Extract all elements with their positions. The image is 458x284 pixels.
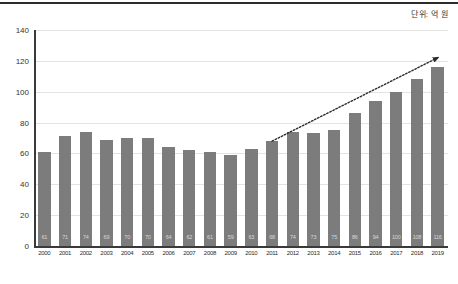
bar: 75 [328,130,340,246]
bar: 94 [369,101,381,246]
x-axis-tick-label: 2018 [411,250,423,256]
bar-value-label: 75 [328,234,340,240]
x-axis-tick-label: 2015 [349,250,361,256]
bar-value-label: 86 [349,234,361,240]
bar-group: 682011 [266,30,278,246]
bar: 116 [431,67,443,246]
bar-value-label: 73 [307,234,319,240]
bar-series: 6120007120017420026920037020047020056420… [34,30,448,246]
bar-value-label: 64 [162,234,174,240]
x-axis-tick-label: 2014 [328,250,340,256]
x-axis-tick-label: 2000 [38,250,50,256]
bar-value-label: 61 [38,234,50,240]
x-axis-tick-label: 2003 [100,250,112,256]
bar-group: 942016 [369,30,381,246]
bar-group: 862015 [349,30,361,246]
bar-group: 1082018 [411,30,423,246]
bar-group: 1002017 [390,30,402,246]
bar: 73 [307,133,319,246]
bar-value-label: 61 [204,234,216,240]
bar-chart-figure: 단위: 억 원 020406080100120140 6120007120017… [0,0,458,284]
x-axis-tick-label: 2011 [266,250,278,256]
bar: 61 [38,152,50,246]
bar-value-label: 69 [100,234,112,240]
x-axis-tick-label: 2016 [369,250,381,256]
bar-value-label: 108 [411,234,423,240]
figure-top-rule [0,2,458,4]
bar-group: 612000 [38,30,50,246]
x-axis-tick-label: 2012 [287,250,299,256]
bar: 100 [390,92,402,246]
y-axis-tick-label: 100 [16,87,29,96]
x-axis-tick-label: 2013 [307,250,319,256]
bar: 71 [59,136,71,246]
y-axis-tick-label: 60 [20,149,29,158]
bar-value-label: 74 [80,234,92,240]
x-axis-tick-label: 2009 [224,250,236,256]
y-axis-tick-label: 20 [20,211,29,220]
bar: 74 [80,132,92,246]
bar: 68 [266,141,278,246]
bar: 70 [142,138,154,246]
bar-value-label: 68 [266,234,278,240]
bar-value-label: 63 [245,234,257,240]
bar-value-label: 74 [287,234,299,240]
x-axis-tick-label: 2004 [121,250,133,256]
bar-group: 702004 [121,30,133,246]
x-axis-tick-label: 2007 [183,250,195,256]
x-axis-tick-label: 2017 [390,250,402,256]
bar: 86 [349,113,361,246]
bar: 108 [411,79,423,246]
bar-group: 732013 [307,30,319,246]
bar-group: 712001 [59,30,71,246]
y-axis-tick-label: 140 [16,26,29,35]
bar-group: 752014 [328,30,340,246]
bar: 70 [121,138,133,246]
x-axis-tick-label: 2006 [162,250,174,256]
bar-value-label: 59 [224,234,236,240]
x-axis-tick-label: 2010 [245,250,257,256]
bar-group: 612008 [204,30,216,246]
bar-value-label: 70 [142,234,154,240]
bar-group: 1162019 [431,30,443,246]
plot-area: 020406080100120140 612000712001742002692… [34,30,448,246]
y-axis-tick-label: 120 [16,56,29,65]
bar-group: 742012 [287,30,299,246]
unit-note: 단위: 억 원 [411,8,448,19]
bar-group: 702005 [142,30,154,246]
bar-value-label: 116 [431,234,443,240]
x-axis-tick-label: 2002 [80,250,92,256]
bar: 61 [204,152,216,246]
bar: 63 [245,149,257,246]
bar-value-label: 100 [390,234,402,240]
bar-value-label: 94 [369,234,381,240]
y-axis-tick-label: 80 [20,118,29,127]
bar-value-label: 62 [183,234,195,240]
bar: 59 [224,155,236,246]
bar-value-label: 71 [59,234,71,240]
x-axis-tick-label: 2019 [431,250,443,256]
bar-group: 622007 [183,30,195,246]
bar: 74 [287,132,299,246]
bar-group: 692003 [100,30,112,246]
x-axis-tick-label: 2005 [142,250,154,256]
bar-value-label: 70 [121,234,133,240]
x-axis-tick-label: 2001 [59,250,71,256]
y-axis-tick-label: 0 [25,242,29,251]
x-axis-tick-label: 2008 [204,250,216,256]
y-axis-tick-label: 40 [20,180,29,189]
bar-group: 742002 [80,30,92,246]
bar-group: 592009 [224,30,236,246]
bar: 64 [162,147,174,246]
bar-group: 642006 [162,30,174,246]
bar: 69 [100,140,112,246]
bar: 62 [183,150,195,246]
bar-group: 632010 [245,30,257,246]
x-axis-line [34,246,448,248]
